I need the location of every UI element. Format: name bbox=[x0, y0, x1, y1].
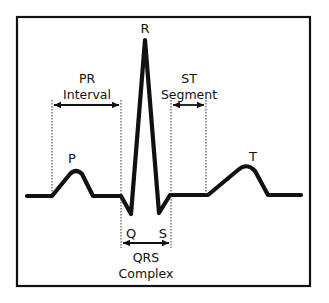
st-label-line2: Segment bbox=[161, 87, 217, 102]
pr-label-line2: Interval bbox=[63, 87, 111, 102]
qrs-label-line2: Complex bbox=[119, 266, 174, 281]
p-wave-label: P bbox=[68, 151, 76, 166]
ecg-trace bbox=[27, 40, 301, 214]
st-label-line1: ST bbox=[181, 71, 197, 86]
pr-label-line1: PR bbox=[79, 71, 96, 86]
ecg-diagram: R P T Q S PR Interval ST Segment QRS Com… bbox=[0, 0, 329, 303]
qrs-label-line1: QRS bbox=[133, 250, 160, 265]
diagram-frame bbox=[17, 17, 310, 286]
q-wave-label: Q bbox=[126, 226, 136, 241]
t-wave-label: T bbox=[248, 149, 257, 164]
r-wave-label: R bbox=[140, 21, 149, 36]
s-wave-label: S bbox=[159, 226, 167, 241]
